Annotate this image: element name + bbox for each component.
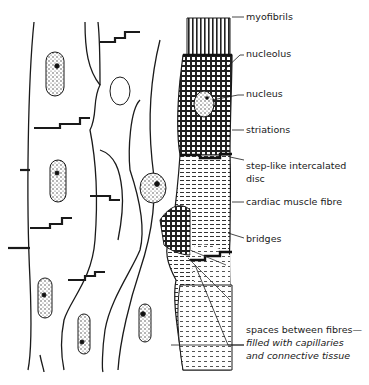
label-bridges: bridges [246, 233, 281, 245]
label-spaces-line2: filled with capillaries [246, 337, 344, 349]
label-nucleus: nucleus [246, 88, 283, 100]
label-nucleolus: nucleolus [246, 48, 291, 60]
label-striations: striations [246, 124, 290, 136]
label-cardiac-muscle-fibre: cardiac muscle fibre [246, 196, 342, 208]
label-spaces-line3: and connective tissue [246, 350, 350, 362]
label-intercalated-disc-line1: step-like intercalated [246, 160, 346, 172]
label-myofibrils: myofibrils [246, 11, 293, 23]
label-spaces-line1: spaces between fibres— [246, 324, 362, 336]
label-intercalated-disc-line2: disc [246, 173, 265, 185]
